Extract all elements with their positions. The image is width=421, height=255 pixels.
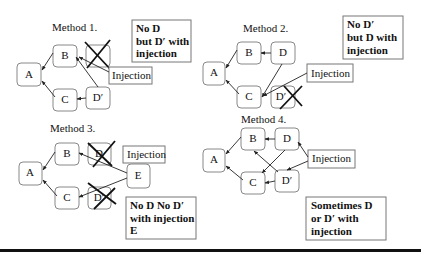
node-b: B <box>55 143 79 165</box>
node-d-prime: D′ <box>86 87 110 109</box>
node-c: C <box>55 187 79 209</box>
node-a: A <box>19 162 42 185</box>
node-a: A <box>203 149 225 172</box>
svg-text:injection: injection <box>311 225 352 237</box>
method-1-note: No D but D′ with injection <box>132 20 191 62</box>
node-d: D <box>275 128 299 150</box>
svg-text:injection: injection <box>136 47 177 59</box>
node-b: B <box>237 42 261 64</box>
svg-text:A: A <box>210 153 218 165</box>
svg-text:E: E <box>130 224 137 236</box>
svg-text:D′: D′ <box>276 90 286 102</box>
method-4: Method 4. A B D C D′ Injection <box>203 113 386 240</box>
method-1: Method 1. A B C D′ Injection <box>17 20 191 111</box>
svg-text:injection: injection <box>347 44 388 56</box>
svg-text:Sometimes D: Sometimes D <box>311 199 372 211</box>
node-d-prime: D′ <box>275 170 299 192</box>
svg-text:Injection: Injection <box>311 67 351 79</box>
svg-text:C: C <box>249 176 256 188</box>
method-4-note: Sometimes D or D′ with injection <box>306 197 386 240</box>
svg-text:or D′ with: or D′ with <box>311 212 359 224</box>
edge-injection-dp <box>287 161 308 170</box>
node-c: C <box>237 86 261 108</box>
svg-text:Injection: Injection <box>127 148 167 160</box>
node-a: A <box>17 63 41 86</box>
node-c: C <box>241 172 265 194</box>
svg-text:but D′ with: but D′ with <box>136 35 189 47</box>
edge-dp-c <box>77 98 86 99</box>
edge-b-a <box>42 53 53 70</box>
edge-injection-d <box>298 142 308 157</box>
svg-text:D: D <box>283 132 291 144</box>
injection-label: Injection <box>123 146 167 163</box>
node-d: D <box>271 42 295 64</box>
svg-text:D′: D′ <box>93 91 103 103</box>
svg-text:C: C <box>245 90 252 102</box>
method-2-note: No D′ but D with injection <box>343 16 403 59</box>
svg-text:E: E <box>135 169 142 181</box>
method-3-note: No D No D′ with injection E <box>126 197 196 239</box>
bottom-rule <box>0 249 421 252</box>
method-1-title: Method 1. <box>52 21 97 33</box>
injection-label: Injection <box>308 150 355 168</box>
edge-c-a <box>42 81 55 97</box>
svg-text:B: B <box>249 132 256 144</box>
method-2: Method 2. A B D C D′ Injection <box>203 16 403 109</box>
method-3-title: Method 3. <box>50 122 95 134</box>
svg-text:A: A <box>26 166 34 178</box>
svg-text:A: A <box>25 68 33 80</box>
node-e: E <box>127 164 150 188</box>
svg-text:C: C <box>61 93 68 105</box>
edge-c-a <box>226 166 243 180</box>
node-b: B <box>53 45 77 67</box>
edge-b-a <box>226 50 237 68</box>
svg-text:No D No D′: No D No D′ <box>130 199 184 211</box>
svg-text:Injection: Injection <box>312 152 352 164</box>
node-b: B <box>241 128 265 150</box>
svg-text:Injection: Injection <box>112 69 152 81</box>
svg-text:B: B <box>245 46 252 58</box>
edge-b-a <box>226 137 241 154</box>
svg-text:No D′: No D′ <box>347 18 374 30</box>
svg-text:B: B <box>61 49 68 61</box>
method-4-title: Method 4. <box>241 113 286 125</box>
edge-dp-c <box>265 181 275 183</box>
methods-diagram: Method 1. A B C D′ Injection <box>0 0 421 255</box>
edge-c-a <box>226 80 239 94</box>
node-a: A <box>203 62 225 85</box>
svg-text:D: D <box>279 46 287 58</box>
injection-label: Injection <box>109 67 152 84</box>
svg-text:D′: D′ <box>282 174 292 186</box>
method-3: Method 3. A B C D D′ Injection <box>19 122 196 239</box>
injection-label: Injection <box>307 64 353 82</box>
node-c: C <box>53 89 77 111</box>
svg-text:with injection: with injection <box>130 212 194 224</box>
edge-c-a <box>43 180 57 196</box>
method-2-title: Method 2. <box>243 22 288 34</box>
edge-b-a <box>43 152 55 170</box>
svg-text:No D: No D <box>136 22 160 34</box>
svg-text:but D with: but D with <box>347 31 397 43</box>
svg-text:B: B <box>63 147 70 159</box>
svg-text:A: A <box>210 66 218 78</box>
svg-text:C: C <box>63 191 70 203</box>
